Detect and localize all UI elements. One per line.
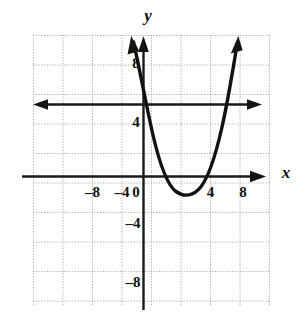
coordinate-plane-svg: y x –8 –4 0 4 8 8 4 –4 –8 — [0, 0, 306, 319]
x-tick-label-zero: 0 — [132, 184, 140, 200]
x-tick-label-8: 8 — [239, 184, 247, 200]
x-axis-label: x — [281, 163, 291, 182]
x-tick-label-neg4: –4 — [114, 184, 131, 200]
x-tick-label-neg8: –8 — [84, 184, 100, 200]
x-tick-label-4: 4 — [207, 184, 215, 200]
y-tick-label-8: 8 — [132, 55, 140, 71]
y-tick-label-neg4: –4 — [125, 215, 142, 231]
graph-figure: y x –8 –4 0 4 8 8 4 –4 –8 — [0, 0, 306, 319]
y-tick-label-neg8: –8 — [125, 274, 141, 290]
y-tick-label-4: 4 — [132, 114, 140, 130]
y-axis-label: y — [142, 6, 152, 25]
